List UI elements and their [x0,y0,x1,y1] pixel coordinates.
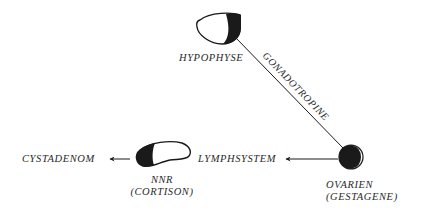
nnr-label: NNR (CORTISON) [122,174,202,198]
ovarien-label: OVARIEN (GESTAGENE) [326,179,398,203]
hypophyse-icon [197,13,241,44]
cystadenom-label: CYSTADENOM [22,153,95,165]
nnr-icon [136,142,190,167]
ovarien-hormone: (GESTAGENE) [326,191,398,203]
nnr-name: NNR [122,174,202,186]
lymphsystem-label: LYMPHSYSTEM [198,153,276,165]
nnr-hormone: (CORTISON) [122,186,202,198]
hypophyse-label: HYPOPHYSE [179,52,243,64]
ovarien-name: OVARIEN [326,179,398,191]
gonadotropine-line [236,38,343,148]
ovarien-icon [339,145,364,169]
gonadotropine-label: GONADOTROPINE [261,50,332,123]
